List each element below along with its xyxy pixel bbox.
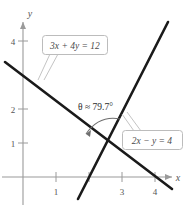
callout-line2: 2x − y = 4	[122, 112, 183, 150]
line-3x-plus-4y-equals-12	[5, 62, 172, 189]
x-tick-label-1: 1	[54, 187, 59, 197]
y-axis-arrowhead	[20, 22, 26, 29]
coordinate-plane-figure: x y 1 3 4 1 2 4 θ ≈ 79.7°	[0, 0, 189, 207]
y-tick-label-1: 1	[11, 139, 16, 149]
callout-line1: 3x + 4y = 12	[38, 36, 108, 81]
x-axis-label: x	[175, 172, 181, 183]
y-tick-label-4: 4	[11, 37, 16, 47]
callout-line2-label: 2x − y = 4	[132, 136, 173, 146]
x-ticks-group: 1 3 4	[54, 172, 158, 197]
y-ticks-group: 1 2 4	[11, 37, 28, 149]
x-tick-label-3: 3	[120, 187, 125, 197]
x-axis-arrowhead	[165, 174, 172, 180]
callout-line1-leader	[38, 54, 58, 80]
callout-line1-label: 3x + 4y = 12	[49, 41, 100, 51]
y-axis-label: y	[27, 8, 33, 19]
x-tick-label-4: 4	[153, 187, 158, 197]
callout-line2-leader	[122, 112, 141, 131]
y-tick-label-2: 2	[11, 105, 16, 115]
angle-label: θ ≈ 79.7°	[78, 102, 113, 112]
